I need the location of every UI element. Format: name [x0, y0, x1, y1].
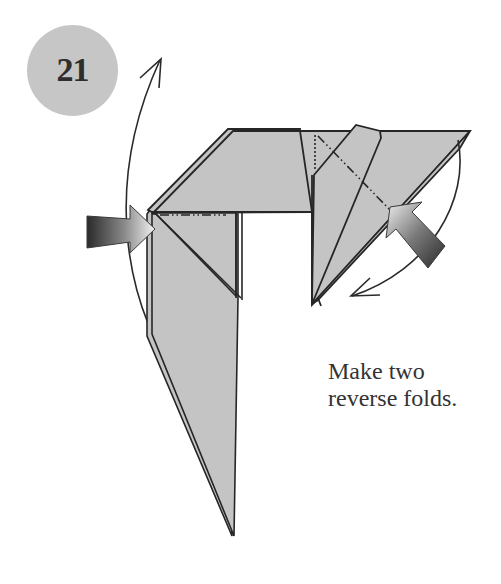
caption-line-2: reverse folds. — [328, 385, 457, 412]
origami-diagram — [0, 0, 501, 584]
right-section — [300, 125, 470, 306]
instruction-caption: Make two reverse folds. — [328, 358, 457, 412]
caption-line-1: Make two — [328, 358, 457, 385]
left-push-arrow — [87, 205, 155, 253]
